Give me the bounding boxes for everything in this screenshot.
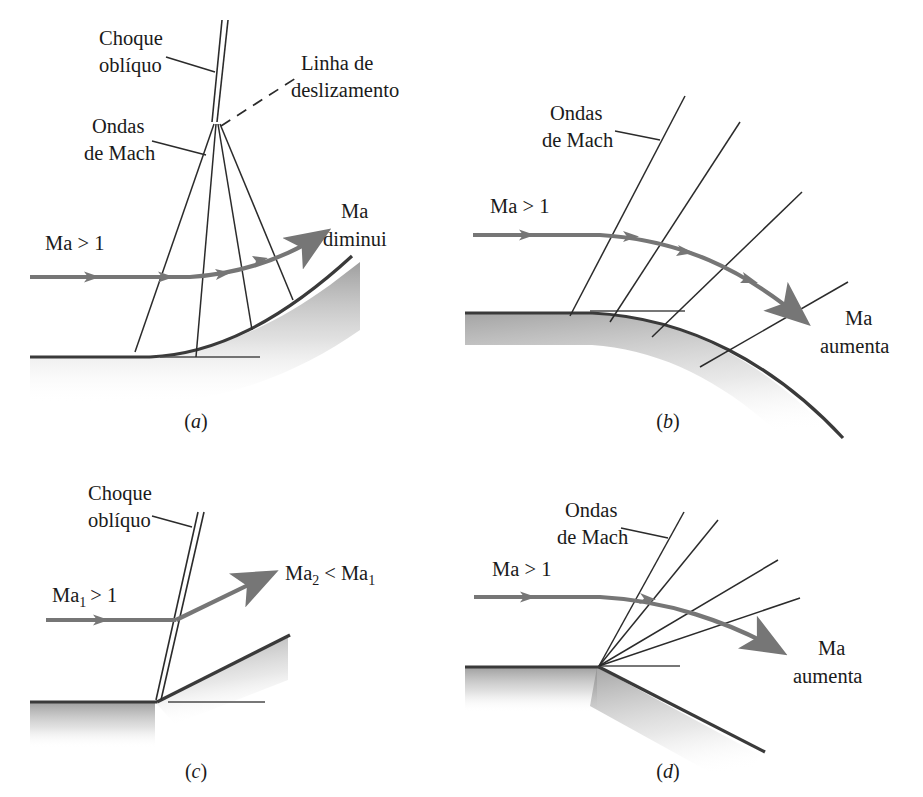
figure-svg: Choque oblíquo Linha de deslizamento Ond…: [0, 0, 923, 797]
label-outflow-c: Ma2<Ma1: [285, 562, 375, 588]
label-inflow-a: Ma > 1: [45, 232, 104, 254]
label-inflow-c: Ma1> 1: [52, 584, 117, 610]
label-outflow-d-line1: Ma: [818, 637, 845, 659]
label-outflow-c-base2: Ma: [341, 562, 368, 584]
label-outflow-b-line1: Ma: [845, 307, 872, 329]
label-slip-a-line2: deslizamento: [291, 79, 399, 101]
caption-d: (d): [656, 760, 679, 783]
mach-wave-d-4: [599, 598, 800, 666]
caption-b: (b): [656, 410, 679, 433]
mach-wave-a-3: [218, 124, 252, 330]
figure-container: Choque oblíquo Linha de deslizamento Ond…: [0, 0, 923, 797]
label-inflow-d: Ma > 1: [492, 558, 551, 580]
panel-a: Choque oblíquo Linha de deslizamento Ond…: [30, 20, 399, 433]
panel-d: Ondas de Mach Ma > 1 Ma aumenta (d): [465, 499, 862, 790]
panel-c: Choque oblíquo Ma1> 1 Ma2<Ma1 (c): [30, 482, 375, 783]
wall-shadow-c-ramp: [155, 637, 288, 724]
label-outflow-a-line2: diminui: [323, 228, 387, 250]
label-mach-b-line2: de Mach: [542, 129, 613, 151]
wall-shadow-b: [465, 313, 830, 455]
label-inflow-b: Ma > 1: [490, 195, 549, 217]
label-outflow-c-mid: <: [324, 562, 336, 584]
caption-a: (a): [184, 410, 207, 433]
leader-mach-b: [615, 131, 660, 140]
streamline-d: [474, 597, 782, 652]
caption-c: (c): [185, 760, 207, 783]
label-outflow-c-base1: Ma: [285, 562, 312, 584]
streamline-b: [473, 235, 806, 322]
mach-wave-b-3: [652, 192, 802, 337]
label-slip-a-line1: Linha de: [301, 52, 373, 74]
leader-shock-a: [166, 57, 215, 72]
label-shock-c-line2: oblíquo: [88, 509, 151, 532]
leader-mach-a: [152, 141, 206, 155]
label-mach-d-line1: Ondas: [565, 499, 617, 521]
mach-wave-b-2: [610, 122, 740, 322]
label-outflow-d-line2: aumenta: [793, 665, 862, 687]
label-shock-a-line1: Choque: [99, 27, 163, 50]
oblique-shock-c-2: [161, 512, 204, 700]
slip-line-a: [221, 78, 296, 126]
label-mach-a-line2: de Mach: [84, 142, 155, 164]
label-inflow-c-base: Ma: [52, 584, 79, 606]
wall-shadow-d-flat: [465, 667, 597, 712]
label-inflow-c-sub: 1: [79, 595, 86, 610]
label-mach-b-line1: Ondas: [550, 102, 602, 124]
label-mach-a-line1: Ondas: [92, 115, 144, 137]
mach-wave-a-2: [196, 124, 216, 357]
wall-shadow-a: [30, 262, 360, 404]
streamline-c-out: [176, 573, 273, 620]
label-outflow-b-line2: aumenta: [820, 335, 889, 357]
label-outflow-c-sub2: 1: [368, 573, 375, 588]
oblique-shock-a-2: [217, 20, 228, 122]
label-shock-c-line1: Choque: [88, 482, 152, 505]
label-mach-d-line2: de Mach: [557, 526, 628, 548]
leader-shock-c: [152, 516, 192, 527]
label-outflow-a-line1: Ma: [341, 200, 368, 222]
panel-b: Ondas de Mach Ma > 1 Ma aumenta (b): [465, 96, 889, 455]
label-inflow-c-rest: > 1: [90, 584, 117, 606]
oblique-shock-c-1: [156, 512, 198, 700]
wall-shadow-c-flat: [30, 702, 155, 748]
label-outflow-c-sub1: 2: [312, 573, 319, 588]
label-shock-a-line2: oblíquo: [99, 54, 162, 77]
